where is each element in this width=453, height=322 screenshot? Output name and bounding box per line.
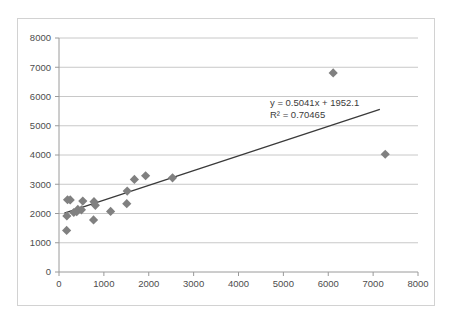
x-axis-tick-label: 7000 [363, 278, 384, 289]
y-axis-tick-label: 3000 [30, 179, 51, 190]
data-point-marker[interactable] [89, 215, 98, 224]
x-axis-tick-label: 1000 [93, 278, 114, 289]
x-axis-tick-label: 8000 [407, 278, 428, 289]
chart-container: 010002000300040005000600070008000 010002… [0, 0, 453, 322]
x-axis-tick-label: 0 [56, 278, 61, 289]
scatter-plot[interactable]: 010002000300040005000600070008000 010002… [0, 0, 453, 322]
trendline-group [64, 109, 379, 213]
y-axis-tick-label: 5000 [30, 120, 51, 131]
y-axis-tick-labels: 010002000300040005000600070008000 [30, 32, 51, 277]
trendline-equation-label: y = 0.5041x + 1952.1 [270, 97, 359, 108]
x-axis-tick-label: 3000 [183, 278, 204, 289]
y-axis-tick-label: 6000 [30, 91, 51, 102]
y-axis-tick-label: 1000 [30, 237, 51, 248]
data-point-marker[interactable] [168, 173, 177, 182]
data-point-marker[interactable] [329, 68, 338, 77]
y-axis-tick-label: 2000 [30, 208, 51, 219]
data-point-marker[interactable] [78, 196, 87, 205]
trendline [64, 109, 379, 213]
x-axis-tick-label: 2000 [138, 278, 159, 289]
data-point-marker[interactable] [106, 207, 115, 216]
x-axis-tick-label: 5000 [273, 278, 294, 289]
data-point-marker[interactable] [130, 175, 139, 184]
x-axis-tick-label: 4000 [228, 278, 249, 289]
y-axis-tick-label: 0 [46, 266, 51, 277]
y-axis-tick-label: 7000 [30, 62, 51, 73]
data-point-marker[interactable] [141, 171, 150, 180]
data-points-group[interactable] [62, 68, 390, 235]
y-axis-tick-label: 4000 [30, 149, 51, 160]
trendline-r2-label: R² = 0.70465 [270, 109, 325, 120]
data-point-marker[interactable] [62, 226, 71, 235]
y-axis-tick-label: 8000 [30, 32, 51, 43]
data-point-marker[interactable] [123, 187, 132, 196]
data-point-marker[interactable] [122, 199, 131, 208]
x-axis-tick-label: 6000 [318, 278, 339, 289]
data-point-marker[interactable] [381, 150, 390, 159]
x-axis-tick-labels: 010002000300040005000600070008000 [56, 278, 428, 289]
